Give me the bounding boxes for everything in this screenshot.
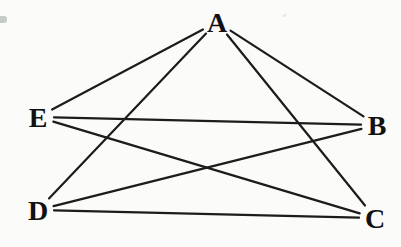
graph-figure: AEBDC	[0, 0, 401, 247]
node-label-C: C	[365, 203, 385, 234]
node-label-A: A	[207, 7, 228, 38]
node-label-B: B	[368, 110, 387, 141]
edge-A-E	[52, 30, 203, 110]
node-label-D: D	[28, 195, 48, 226]
edge-E-B	[54, 117, 361, 124]
node-label-E: E	[29, 102, 48, 133]
graph-svg: AEBDC	[0, 0, 401, 247]
edge-A-B	[231, 31, 364, 117]
scan-smudge-artifact	[0, 16, 7, 23]
edge-D-C	[54, 210, 359, 217]
edge-D-B	[54, 129, 362, 206]
scan-speck-artifact	[283, 14, 286, 17]
